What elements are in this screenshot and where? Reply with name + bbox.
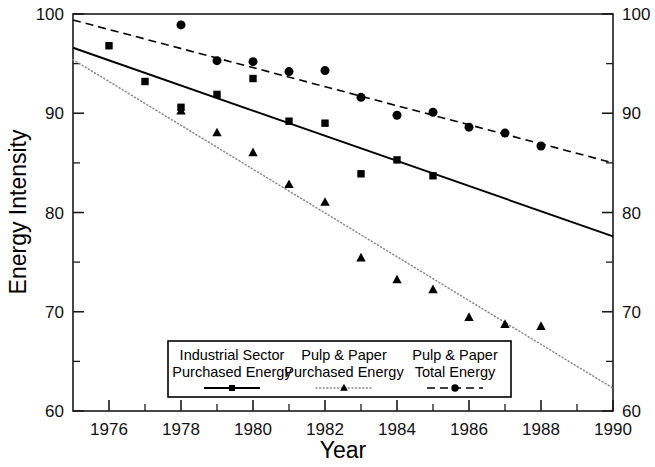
series-points <box>176 106 545 330</box>
x-axis-title: Year <box>320 437 367 463</box>
data-marker-circle <box>393 111 402 120</box>
x-tick-label: 1984 <box>378 420 416 439</box>
data-marker-square <box>141 78 148 85</box>
data-marker-triangle <box>248 148 257 157</box>
trend-line <box>73 60 613 389</box>
y-tick-label-left: 90 <box>45 104 64 123</box>
legend-label-line1: Pulp & Paper <box>412 347 498 363</box>
series-points <box>105 42 436 179</box>
data-marker-square <box>229 385 235 391</box>
data-marker-square <box>105 42 112 49</box>
legend-label-line1: Industrial Sector <box>180 347 285 363</box>
data-marker-triangle <box>284 179 293 188</box>
chart-container: 60708090100 60708090100 1976197819801982… <box>0 0 655 467</box>
data-marker-circle <box>249 57 258 66</box>
y-tick-label-left: 60 <box>45 402 64 421</box>
data-marker-circle <box>177 20 186 29</box>
series-data-markers <box>105 20 545 329</box>
data-marker-circle <box>465 123 474 132</box>
y-tick-label-left: 70 <box>45 303 64 322</box>
data-marker-circle <box>429 108 438 117</box>
chart-legend: Industrial SectorPurchased EnergyPulp & … <box>168 341 511 397</box>
y-tick-label-right: 70 <box>622 303 641 322</box>
data-marker-triangle <box>356 253 365 262</box>
y-axis-title: Energy Intensity <box>5 129 31 294</box>
data-marker-square <box>357 170 364 177</box>
data-marker-square <box>249 75 256 82</box>
x-tick-label: 1988 <box>522 420 560 439</box>
series-trend-lines <box>73 20 613 388</box>
data-marker-triangle <box>212 128 221 137</box>
data-marker-triangle <box>392 275 401 284</box>
y-axis-right-tick-labels: 60708090100 <box>622 5 650 421</box>
legend-label-line2: Total Energy <box>415 364 496 380</box>
y-axis-left-ticks <box>73 14 84 411</box>
data-marker-triangle <box>428 285 437 294</box>
y-tick-label-left: 100 <box>36 5 64 24</box>
data-marker-square <box>429 172 436 179</box>
data-marker-square <box>393 156 400 163</box>
energy-intensity-chart: 60708090100 60708090100 1976197819801982… <box>0 0 655 467</box>
y-axis-right-ticks <box>602 14 613 411</box>
x-tick-label: 1990 <box>594 420 632 439</box>
data-marker-square <box>285 117 292 124</box>
legend-label-line1: Pulp & Paper <box>301 347 387 363</box>
data-marker-circle <box>213 56 222 65</box>
legend-label-line2: Purchased Energy <box>172 364 292 380</box>
data-marker-square <box>213 91 220 98</box>
data-marker-triangle <box>536 321 545 330</box>
data-marker-circle <box>537 142 546 151</box>
y-tick-label-right: 60 <box>622 402 641 421</box>
y-tick-label-right: 90 <box>622 104 641 123</box>
x-tick-label: 1976 <box>90 420 128 439</box>
data-marker-triangle <box>464 312 473 321</box>
x-tick-label: 1980 <box>234 420 272 439</box>
data-marker-circle <box>285 67 294 76</box>
data-marker-circle <box>451 384 458 391</box>
y-tick-label-right: 100 <box>622 5 650 24</box>
y-tick-label-right: 80 <box>622 204 641 223</box>
x-axis-ticks <box>109 400 613 411</box>
legend-label-line2: Purchased Energy <box>284 364 404 380</box>
data-marker-circle <box>321 66 330 75</box>
y-axis-left-tick-labels: 60708090100 <box>36 5 64 421</box>
y-tick-label-left: 80 <box>45 204 64 223</box>
x-tick-label: 1986 <box>450 420 488 439</box>
data-marker-circle <box>357 93 366 102</box>
data-marker-triangle <box>320 197 329 206</box>
data-marker-square <box>321 119 328 126</box>
x-tick-label: 1978 <box>162 420 200 439</box>
data-marker-circle <box>501 129 510 138</box>
